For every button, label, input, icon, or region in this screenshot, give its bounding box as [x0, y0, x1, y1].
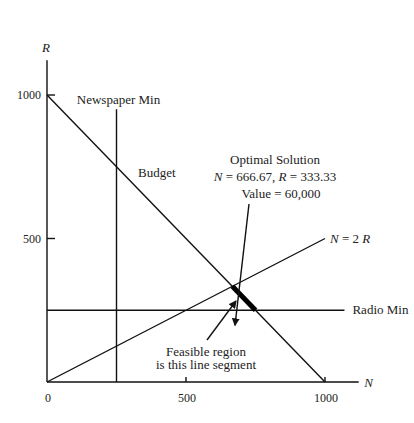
x-tick-label: 0 [45, 391, 51, 405]
newspaper-min-label: Newspaper Min [77, 92, 161, 107]
x-tick-label: 1000 [314, 391, 338, 405]
radio-min-label: Radio Min [352, 302, 408, 317]
n-equals-2r-label-part: R [361, 231, 370, 246]
y-axis-label: R [41, 40, 50, 55]
feasible-region-arrow [207, 301, 236, 340]
feasible-region-label-line2: is this line segment [156, 357, 256, 372]
optimal-solution-value: Value = 60,000 [241, 186, 320, 201]
optimal-solution-title: Optimal Solution [230, 152, 320, 167]
optimal-solution-values: N = 666.67, R = 333.33 [213, 169, 336, 184]
n-equals-2r-label-part: = 2 [339, 231, 363, 246]
optimal-solution-values-part: = 666.67, [223, 169, 279, 184]
y-tick-label: 1000 [17, 88, 41, 102]
x-tick-label: 500 [178, 391, 196, 405]
optimal-solution-arrow [235, 204, 249, 325]
lp-graph: RN050010005001000 Newspaper MinBudgetRad… [0, 0, 414, 423]
feasible-segment [232, 286, 255, 310]
optimal-solution-values-part: R [278, 169, 287, 184]
optimal-solution-values-part: = 333.33 [287, 169, 337, 184]
budget-line [47, 95, 325, 382]
n-equals-2r-label: N = 2 R [329, 231, 370, 246]
y-tick-label: 500 [23, 232, 41, 246]
budget-label: Budget [138, 165, 176, 180]
x-axis-label: N [363, 375, 374, 390]
